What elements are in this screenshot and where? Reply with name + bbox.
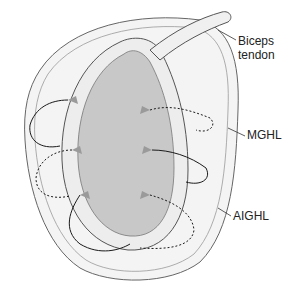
- label-biceps-tendon: Biceps tendon: [238, 34, 275, 62]
- label-mghl: MGHL: [247, 128, 282, 142]
- label-biceps-line2: tendon: [238, 48, 275, 62]
- label-aighl: AIGHL: [233, 209, 269, 223]
- label-biceps-line1: Biceps: [238, 34, 275, 48]
